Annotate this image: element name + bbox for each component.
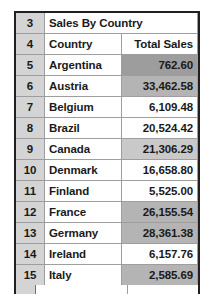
column-header-total-sales[interactable]: Total Sales (121, 34, 198, 55)
row-header-11[interactable]: 11 (16, 181, 45, 202)
sheet-title-cell[interactable]: Sales By Country (45, 13, 198, 34)
table-row: 5 Argentina 762.60 (16, 55, 198, 76)
row-header-8[interactable]: 8 (16, 118, 45, 139)
column-header-row: 4 Country Total Sales (16, 34, 198, 55)
row-header-13[interactable]: 13 (16, 223, 45, 244)
cell-total-sales[interactable]: 5,525.00 (121, 181, 198, 202)
cell-total-sales[interactable]: 33,462.58 (121, 76, 198, 97)
cell-country[interactable]: Brazil (45, 118, 122, 139)
row-header-7[interactable]: 7 (16, 97, 45, 118)
cell-country[interactable]: Finland (45, 181, 122, 202)
cell-total-sales[interactable]: 26,155.54 (121, 202, 198, 223)
row-header-10[interactable]: 10 (16, 160, 45, 181)
cell-country[interactable]: Austria (45, 76, 122, 97)
cell-total-sales[interactable]: 2,585.69 (121, 265, 198, 286)
cell-total-sales[interactable]: 21,306.29 (121, 139, 198, 160)
cell-total-sales[interactable]: 762.60 (121, 55, 198, 76)
table-body: 3 Sales By Country 4 Country Total Sales… (16, 13, 198, 285)
row-header-6[interactable]: 6 (16, 76, 45, 97)
column-divider-continuation (127, 285, 128, 294)
row-header-4[interactable]: 4 (16, 34, 45, 55)
title-row: 3 Sales By Country (16, 13, 198, 34)
cell-total-sales[interactable]: 6,109.48 (121, 97, 198, 118)
table-row: 13 Germany 28,361.38 (16, 223, 198, 244)
cell-total-sales[interactable]: 16,658.80 (121, 160, 198, 181)
table-row: 6 Austria 33,462.58 (16, 76, 198, 97)
table-row: 9 Canada 21,306.29 (16, 139, 198, 160)
cell-country[interactable]: Belgium (45, 97, 122, 118)
table-row: 14 Ireland 6,157.76 (16, 244, 198, 265)
spreadsheet-range: 3 Sales By Country 4 Country Total Sales… (14, 11, 200, 287)
row-header-15[interactable]: 15 (16, 265, 45, 286)
cell-country[interactable]: Ireland (45, 244, 122, 265)
table-row: 7 Belgium 6,109.48 (16, 97, 198, 118)
column-header-country[interactable]: Country (45, 34, 122, 55)
cell-total-sales[interactable]: 6,157.76 (121, 244, 198, 265)
row-header-12[interactable]: 12 (16, 202, 45, 223)
table-row: 15 Italy 2,585.69 (16, 265, 198, 286)
row-header-9[interactable]: 9 (16, 139, 45, 160)
table-row: 12 France 26,155.54 (16, 202, 198, 223)
cell-country[interactable]: Germany (45, 223, 122, 244)
cell-country[interactable]: Denmark (45, 160, 122, 181)
table-row: 8 Brazil 20,524.42 (16, 118, 198, 139)
cell-country[interactable]: Italy (45, 265, 122, 286)
cell-country[interactable]: Canada (45, 139, 122, 160)
row-header-gutter-continuation (16, 285, 36, 294)
cell-total-sales[interactable]: 20,524.42 (121, 118, 198, 139)
row-header-3[interactable]: 3 (16, 13, 45, 34)
cell-country[interactable]: Argentina (45, 55, 122, 76)
cell-country[interactable]: France (45, 202, 122, 223)
cell-total-sales[interactable]: 28,361.38 (121, 223, 198, 244)
table-row: 10 Denmark 16,658.80 (16, 160, 198, 181)
row-header-5[interactable]: 5 (16, 55, 45, 76)
sales-by-country-table: 3 Sales By Country 4 Country Total Sales… (16, 13, 198, 285)
row-header-14[interactable]: 14 (16, 244, 45, 265)
table-row: 11 Finland 5,525.00 (16, 181, 198, 202)
sheet-bottom-edge (14, 285, 200, 294)
